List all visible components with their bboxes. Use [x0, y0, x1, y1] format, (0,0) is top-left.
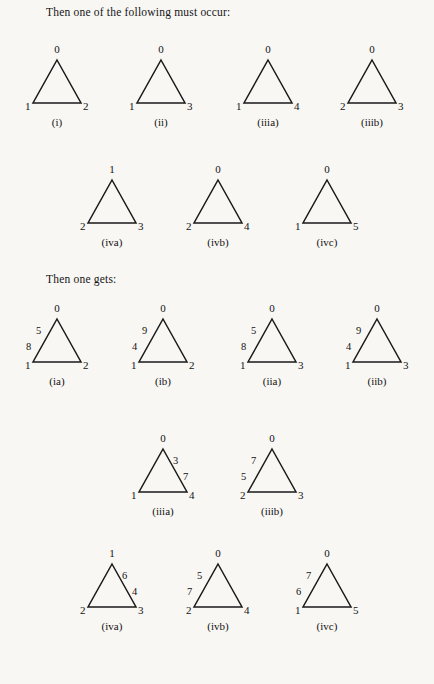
vertex-label-bottom-right: 4: [294, 101, 300, 112]
vertex-label-bottom-right: 3: [187, 101, 193, 112]
vertex-label-apex: 1: [109, 164, 115, 175]
vertex-label-apex: 1: [109, 548, 115, 559]
triangle-figure-iiib2: 02375(iiib): [224, 433, 320, 519]
edge-label-left-bottom: 4: [346, 342, 351, 353]
figure-caption: (iva): [102, 620, 123, 632]
edge-label-right-bottom: 7: [183, 472, 188, 483]
triangle-figure-ia: 01258(ia): [9, 303, 105, 389]
vertex-label-bottom-right: 3: [403, 360, 409, 371]
triangle-figure-iva2: 12364(iva): [64, 548, 160, 634]
triangle-figure-ivb: 024(ivb): [170, 164, 266, 250]
figure-caption: (iib): [368, 375, 387, 387]
vertex-label-bottom-right: 5: [353, 605, 359, 616]
vertex-label-bottom-right: 4: [244, 605, 250, 616]
vertex-label-bottom-right: 2: [83, 360, 89, 371]
edge-label-left-bottom: 6: [296, 587, 301, 598]
vertex-label-bottom-right: 2: [83, 101, 89, 112]
edge-label-left-bottom: 5: [241, 472, 246, 483]
vertex-label-apex: 0: [265, 44, 271, 55]
heading-then-one-of-the-following-must-occur: Then one of the following must occur:: [46, 6, 230, 18]
edge-label-left-top: 9: [142, 326, 147, 337]
vertex-label-bottom-left: 2: [240, 490, 246, 501]
triangle-figure-ib: 01294(ib): [115, 303, 211, 389]
figure-page: Then one of the following must occur: Th…: [0, 0, 434, 684]
triangle-figure-ivb2: 02457(ivb): [170, 548, 266, 634]
vertex-label-apex: 0: [269, 303, 275, 314]
vertex-label-bottom-right: 5: [353, 221, 359, 232]
edge-label-left-bottom: 4: [132, 342, 137, 353]
vertex-label-bottom-left: 1: [240, 360, 246, 371]
edge-label-left-top: 7: [251, 456, 256, 467]
vertex-label-bottom-right: 3: [138, 221, 144, 232]
vertex-label-bottom-left: 2: [340, 101, 346, 112]
figure-caption: (iva): [102, 236, 123, 248]
edge-label-left-bottom: 7: [187, 587, 192, 598]
vertex-label-bottom-left: 1: [25, 360, 31, 371]
triangle-figure-ivc: 015(ivc): [279, 164, 375, 250]
vertex-label-apex: 0: [374, 303, 380, 314]
vertex-label-apex: 0: [158, 44, 164, 55]
triangle-figure-iib: 01394(iib): [329, 303, 425, 389]
vertex-label-bottom-left: 1: [25, 101, 31, 112]
vertex-label-bottom-right: 3: [398, 101, 404, 112]
vertex-label-apex: 0: [160, 433, 166, 444]
figure-caption: (ivc): [317, 236, 338, 248]
edge-label-right-bottom: 4: [132, 587, 137, 598]
figure-caption: (iiib): [261, 505, 283, 517]
figure-caption: (iiib): [361, 116, 383, 128]
vertex-label-bottom-left: 1: [236, 101, 242, 112]
edge-label-left-top: 9: [356, 326, 361, 337]
vertex-label-bottom-right: 3: [138, 605, 144, 616]
vertex-label-apex: 0: [215, 164, 221, 175]
edge-label-left-top: 5: [36, 326, 41, 337]
triangle-figure-ii: 013(ii): [113, 44, 209, 130]
vertex-label-bottom-right: 2: [189, 360, 195, 371]
figure-caption: (ivb): [207, 620, 228, 632]
vertex-label-bottom-left: 1: [131, 490, 137, 501]
heading-then-one-gets: Then one gets:: [46, 273, 117, 285]
vertex-label-apex: 0: [54, 44, 60, 55]
vertex-label-bottom-right: 4: [244, 221, 250, 232]
vertex-label-apex: 0: [324, 548, 330, 559]
edge-label-left-bottom: 8: [26, 342, 31, 353]
edge-label-left-top: 5: [197, 571, 202, 582]
vertex-label-bottom-left: 1: [129, 101, 135, 112]
edge-label-left-top: 7: [306, 571, 311, 582]
vertex-label-apex: 0: [269, 433, 275, 444]
vertex-label-apex: 0: [160, 303, 166, 314]
triangle-figure-iia: 01358(iia): [224, 303, 320, 389]
triangle-figure-iiia2: 01437(iiia): [115, 433, 211, 519]
vertex-label-bottom-left: 2: [80, 605, 86, 616]
vertex-label-bottom-left: 1: [295, 605, 301, 616]
vertex-label-bottom-left: 1: [345, 360, 351, 371]
figure-caption: (ivc): [317, 620, 338, 632]
figure-caption: (iiia): [257, 116, 278, 128]
triangle-figure-iva: 123(iva): [64, 164, 160, 250]
vertex-label-apex: 0: [54, 303, 60, 314]
triangle-figure-i: 012(i): [9, 44, 105, 130]
figure-caption: (iiia): [152, 505, 173, 517]
triangle-figure-iiib: 023(iiib): [324, 44, 420, 130]
vertex-label-apex: 0: [215, 548, 221, 559]
vertex-label-bottom-left: 2: [186, 221, 192, 232]
edge-label-left-top: 5: [251, 326, 256, 337]
edge-label-right-top: 6: [122, 571, 127, 582]
vertex-label-bottom-left: 2: [186, 605, 192, 616]
edge-label-left-bottom: 8: [241, 342, 246, 353]
vertex-label-bottom-right: 4: [189, 490, 195, 501]
edge-label-right-top: 3: [173, 456, 178, 467]
figure-caption: (ia): [49, 375, 64, 387]
triangle-figure-iiia: 014(iiia): [220, 44, 316, 130]
figure-caption: (ivb): [207, 236, 228, 248]
triangle-figure-ivc2: 01576(ivc): [279, 548, 375, 634]
vertex-label-bottom-left: 1: [295, 221, 301, 232]
vertex-label-bottom-left: 1: [131, 360, 137, 371]
vertex-label-apex: 0: [369, 44, 375, 55]
vertex-label-bottom-left: 2: [80, 221, 86, 232]
figure-caption: (iia): [263, 375, 281, 387]
figure-caption: (ii): [154, 116, 167, 128]
vertex-label-bottom-right: 3: [298, 360, 304, 371]
vertex-label-apex: 0: [324, 164, 330, 175]
figure-caption: (i): [52, 116, 62, 128]
vertex-label-bottom-right: 3: [298, 490, 304, 501]
